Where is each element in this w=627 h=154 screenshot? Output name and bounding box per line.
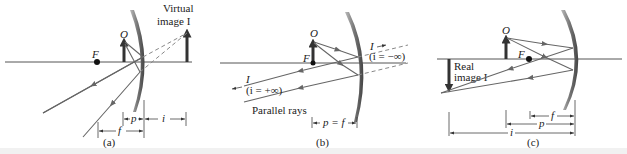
panel-caption: (c) — [527, 136, 540, 149]
ray-b1 — [314, 42, 358, 57]
panel-a: F O Virtual image I p i f (a) — [5, 2, 194, 149]
parallel-ray-1 — [244, 57, 358, 86]
mirror-concave — [561, 10, 578, 110]
focal-point-label: F — [302, 52, 310, 64]
object-label: O — [310, 27, 318, 39]
dim-f-label: f — [118, 124, 123, 136]
virtual-image-title: Virtual — [163, 2, 194, 14]
object-label: O — [120, 28, 128, 40]
focal-point-label: F — [517, 48, 525, 60]
mirror-concave — [345, 12, 363, 122]
panel-caption: (a) — [103, 136, 116, 149]
dim-f-label: f — [551, 109, 556, 121]
dashed-extension-1 — [143, 33, 187, 57]
panel-c: O F Real image I f p i (c) — [437, 10, 622, 149]
arrow-to-infinity-right — [377, 45, 386, 47]
dim-p-label: p — [130, 112, 137, 124]
focal-point-dot — [311, 61, 316, 66]
arrow-to-infinity-left — [232, 87, 242, 89]
virtual-image-subtitle: image I — [157, 15, 191, 27]
panel-b: O F I (i = −∞) I (i = +∞) Parallel rays … — [220, 12, 408, 149]
parallel-rays-label: Parallel rays — [252, 104, 307, 116]
focal-point-dot — [526, 56, 532, 62]
dim-pf-label: p = f — [322, 116, 346, 128]
focal-point-label: F — [91, 48, 99, 60]
dim-i-label: i — [162, 112, 165, 124]
object-label: O — [502, 24, 510, 36]
panel-caption: (b) — [316, 136, 329, 149]
dashed-extension-2 — [358, 63, 408, 75]
dashed-extension-2 — [140, 33, 187, 72]
mirror-convex — [130, 10, 145, 112]
image-right-note: (i = −∞) — [369, 50, 405, 63]
reflected-ray-a2 — [83, 72, 140, 137]
image-left-note: (i = +∞) — [246, 84, 282, 97]
dim-p-label: p — [538, 117, 545, 129]
real-image-subtitle: image I — [454, 71, 488, 83]
dim-i-label: i — [510, 126, 513, 138]
mirror-ray-diagrams: F O Virtual image I p i f (a) — [0, 0, 627, 154]
